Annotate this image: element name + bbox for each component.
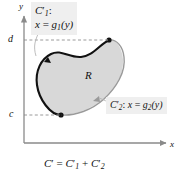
c1-eq-arg: (y) <box>61 18 73 30</box>
y-axis-label: y <box>19 1 23 11</box>
callout-curve-c1: C′1: x = g1(y) <box>31 2 77 35</box>
c1-colon: : <box>49 4 52 16</box>
c2-eq-arg: (y) <box>151 99 162 110</box>
region-label-r: R <box>85 69 92 82</box>
y-tick-label-c: c <box>9 108 13 120</box>
figure-container: y x d c R C′1: x = g1(y) C′2: x = g2(y) … <box>0 0 189 177</box>
sum-eq-sign: = <box>54 157 66 169</box>
c2-base: C <box>110 99 117 110</box>
x-axis-label: x <box>170 139 174 149</box>
y-tick-label-d: d <box>8 33 13 45</box>
figure-graphics <box>0 0 189 177</box>
sum-c2-subscript: 2 <box>101 162 105 171</box>
sum-plus-sign: + <box>79 157 91 169</box>
c2-eq-sign: = <box>132 99 143 110</box>
callout-curve-c2: C′2: x = g2(y) <box>106 97 167 114</box>
curve-sum-label: C′ = C′1 + C′2 <box>44 157 105 171</box>
sum-c1-base: C <box>65 157 72 169</box>
callout-curve-c1-line1: C′1: <box>35 4 73 18</box>
callout-curve-c1-line2: x = g1(y) <box>35 18 73 32</box>
c1-eq-sign: = <box>40 18 52 30</box>
